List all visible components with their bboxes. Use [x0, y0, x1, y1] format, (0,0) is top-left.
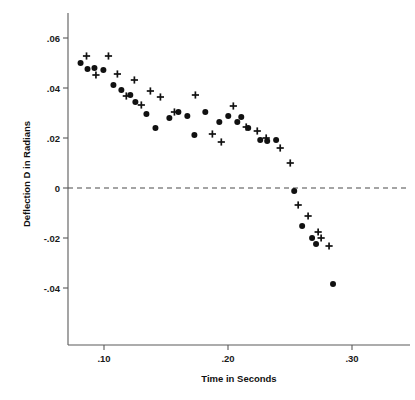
data-point-cross — [305, 212, 312, 219]
data-point-cross — [277, 144, 284, 151]
x-axis-title: Time in Seconds — [201, 373, 276, 384]
data-point-cross — [147, 87, 154, 94]
data-point-dot — [118, 87, 124, 93]
x-tick-label: .20 — [221, 353, 234, 364]
data-point-dot — [291, 188, 297, 194]
x-tick-label: .30 — [345, 353, 358, 364]
y-tick-label: .06 — [47, 33, 60, 44]
data-point-dot — [100, 67, 106, 73]
data-point-dot — [143, 111, 149, 117]
data-point-dot — [330, 281, 336, 287]
data-point-dot — [309, 235, 315, 241]
data-point-dot — [166, 115, 172, 121]
y-tick-label: -.02 — [44, 233, 60, 244]
data-point-dot — [127, 92, 133, 98]
data-point-cross — [254, 127, 261, 134]
data-point-dot — [78, 60, 84, 66]
data-point-cross — [138, 101, 145, 108]
data-point-dot — [299, 223, 305, 229]
data-point-cross — [218, 138, 225, 145]
data-point-dot — [85, 66, 91, 72]
x-tick-label: .10 — [97, 353, 110, 364]
data-point-cross — [192, 91, 199, 98]
data-point-dot — [238, 114, 244, 120]
data-point-dot — [264, 138, 270, 144]
data-point-cross — [230, 102, 237, 109]
data-point-dot — [234, 119, 240, 125]
data-point-cross — [325, 242, 332, 249]
data-point-dot — [313, 241, 319, 247]
series-plus-crosses — [83, 52, 333, 249]
axis-group — [68, 13, 410, 345]
data-point-cross — [287, 159, 294, 166]
y-tick-label: .04 — [47, 83, 61, 94]
y-tick-label: 0 — [55, 183, 60, 194]
x-axis-ticks: .10.20.30 — [97, 345, 358, 364]
data-point-dot — [257, 137, 263, 143]
data-point-dot — [132, 99, 138, 105]
data-point-dot — [216, 119, 222, 125]
data-point-dot — [184, 113, 190, 119]
data-point-dot — [110, 82, 116, 88]
y-tick-label: -.04 — [44, 283, 61, 294]
y-axis-ticks: .06.04.020-.02-.04 — [44, 33, 68, 294]
data-point-cross — [114, 70, 121, 77]
data-point-cross — [92, 71, 99, 78]
data-point-cross — [295, 201, 302, 208]
data-series-group — [78, 52, 336, 287]
data-point-dot — [191, 132, 197, 138]
data-point-dot — [91, 65, 97, 71]
series-filled-circles — [78, 60, 336, 287]
data-point-cross — [105, 52, 112, 59]
data-point-dot — [202, 109, 208, 115]
data-point-cross — [157, 93, 164, 100]
plot-canvas: .06.04.020-.02-.04 .10.20.30 Time in Sec… — [0, 0, 415, 400]
data-point-cross — [209, 130, 216, 137]
y-tick-label: .02 — [47, 133, 60, 144]
data-point-cross — [131, 76, 138, 83]
data-point-dot — [152, 125, 158, 131]
data-point-cross — [83, 52, 90, 59]
y-axis-title: Deflection D in Radians — [21, 121, 32, 227]
data-point-dot — [225, 113, 231, 119]
data-point-dot — [273, 137, 279, 143]
scatter-plot-figure: .06.04.020-.02-.04 .10.20.30 Time in Sec… — [0, 0, 415, 400]
